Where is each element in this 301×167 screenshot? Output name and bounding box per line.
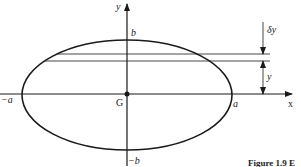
centre-point (125, 92, 130, 97)
y-axis-label: y (115, 1, 121, 12)
a-right-label: a (233, 98, 238, 109)
y-dimension-label: y (266, 71, 272, 82)
a-left-label: −a (1, 94, 13, 105)
ellipse-diagram: y x b −b −a a G δy y Figure 1.9 E (0, 0, 301, 167)
x-axis-label: x (288, 98, 293, 109)
b-bottom-label: −b (128, 155, 140, 166)
centre-label: G (116, 97, 123, 108)
b-top-label: b (131, 27, 136, 38)
delta-y-label: δy (267, 24, 277, 35)
figure-caption: Figure 1.9 E (248, 158, 295, 167)
